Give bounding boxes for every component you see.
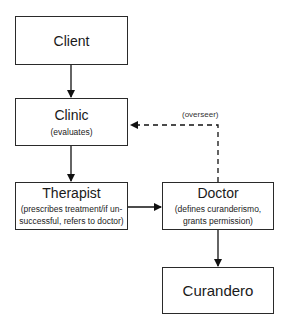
node-curandero: Curandero <box>162 267 274 314</box>
node-therapist-subtitle-line1: (prescribes treatment/if un- <box>21 203 123 215</box>
node-therapist-title: Therapist <box>42 185 100 201</box>
node-therapist: Therapist (prescribes treatment/if un- s… <box>15 182 128 230</box>
node-curandero-title: Curandero <box>183 283 254 299</box>
dashed-arrow-doctor-to-clinic <box>131 125 218 182</box>
edge-label-overseer: (overseer) <box>182 110 218 119</box>
node-doctor-subtitle-line1: (defines curanderismo, <box>175 203 261 215</box>
node-clinic-title: Clinic <box>54 107 88 123</box>
node-doctor-subtitle-line2: grants permission) <box>183 215 253 227</box>
node-doctor-title: Doctor <box>197 185 238 201</box>
node-clinic: Clinic (evaluates) <box>15 98 128 146</box>
node-therapist-subtitle-line2: successful, refers to doctor) <box>19 215 123 227</box>
node-doctor: Doctor (defines curanderismo, grants per… <box>162 182 274 230</box>
node-clinic-subtitle: (evaluates) <box>50 126 92 138</box>
node-client-title: Client <box>54 33 90 49</box>
node-client: Client <box>15 16 128 65</box>
